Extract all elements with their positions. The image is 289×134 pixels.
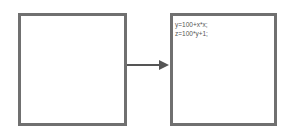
code-line: z=100*y+1;: [175, 29, 208, 38]
arrow-head-icon: [159, 60, 169, 70]
arrow-line: [127, 64, 160, 66]
code-line: y=100+x*x;: [175, 20, 208, 29]
code-block: y=100+x*x;z=100*y+1;: [175, 20, 208, 38]
left-box: [18, 13, 127, 126]
right-box: y=100+x*x;z=100*y+1;: [170, 13, 277, 126]
